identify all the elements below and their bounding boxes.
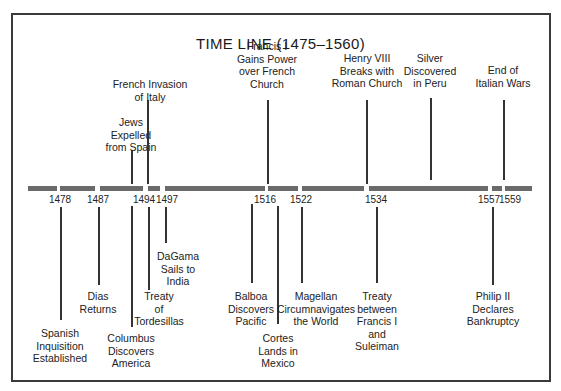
- timeline-segment: [268, 186, 298, 191]
- event-label-line: Roman Church: [332, 77, 403, 90]
- year-label: 1559: [499, 194, 521, 205]
- timeline-segment: [165, 186, 265, 191]
- event-label-line: America: [107, 357, 154, 370]
- event-label: French Invasionof Italy: [113, 78, 188, 103]
- connector-line: [251, 204, 253, 283]
- event-label-line: Magellan: [277, 290, 355, 303]
- timeline-segment: [148, 186, 160, 191]
- connector-line: [430, 98, 432, 180]
- event-label-line: Discovers: [228, 303, 274, 316]
- connector-line: [165, 207, 167, 243]
- event-label-line: Expelled: [106, 129, 157, 142]
- event-label-line: Returns: [80, 303, 117, 316]
- event-label-line: Francis I: [237, 40, 297, 53]
- event-label-line: Church: [237, 78, 297, 91]
- event-label-line: in Peru: [404, 77, 457, 90]
- connector-line: [60, 207, 62, 320]
- event-label-line: from Spain: [106, 141, 157, 154]
- connector-line: [267, 100, 269, 184]
- event-label-line: End of: [475, 64, 530, 77]
- event-label: DaGamaSails toIndia: [157, 250, 199, 288]
- event-label: Philip IIDeclaresBankruptcy: [467, 290, 520, 328]
- connector-line: [376, 207, 378, 283]
- event-label: DiasReturns: [80, 290, 117, 315]
- event-label-line: Columbus: [107, 332, 154, 345]
- event-label: ColumbusDiscoversAmerica: [107, 332, 154, 370]
- year-label: 1497: [156, 194, 178, 205]
- event-label-line: the World: [277, 315, 355, 328]
- event-label-line: Suleiman: [355, 340, 399, 353]
- event-label-line: French Invasion: [113, 78, 188, 91]
- event-label: JewsExpelledfrom Spain: [106, 116, 157, 154]
- timeline-segment: [60, 186, 95, 191]
- connector-line: [301, 207, 303, 283]
- year-label: 1522: [290, 194, 312, 205]
- connector-line: [98, 207, 100, 285]
- event-label-line: Henry VIII: [332, 52, 403, 65]
- event-label: TreatyofTordesillas: [134, 290, 184, 328]
- timeline-segment: [369, 186, 488, 191]
- event-label-line: Bankruptcy: [467, 315, 520, 328]
- event-label-line: DaGama: [157, 250, 199, 263]
- event-label-line: Established: [33, 352, 87, 365]
- event-label: TreatybetweenFrancis IandSuleiman: [355, 290, 399, 353]
- event-label: SpanishInquisitionEstablished: [33, 327, 87, 365]
- connector-line: [131, 150, 133, 184]
- event-label-line: Sails to: [157, 263, 199, 276]
- event-label-line: Discovered: [404, 65, 457, 78]
- event-label-line: Jews: [106, 116, 157, 129]
- event-label-line: Philip II: [467, 290, 520, 303]
- connector-line: [492, 207, 494, 285]
- connector-line: [503, 100, 505, 180]
- year-label: 1557: [478, 194, 500, 205]
- year-label: 1534: [365, 194, 387, 205]
- event-label: CortesLands inMexico: [258, 332, 298, 370]
- event-label-line: Dias: [80, 290, 117, 303]
- event-label-line: Circumnavigates: [277, 303, 355, 316]
- event-label-line: Silver: [404, 52, 457, 65]
- event-label-line: Cortes: [258, 332, 298, 345]
- connector-line: [131, 206, 133, 327]
- event-label-line: Balboa: [228, 290, 274, 303]
- connector-line: [148, 207, 150, 290]
- timeline-segment: [302, 186, 364, 191]
- event-label: MagellanCircumnavigatesthe World: [277, 290, 355, 328]
- event-label-line: between: [355, 303, 399, 316]
- year-label: 1487: [87, 194, 109, 205]
- event-label-line: Gains Power: [237, 53, 297, 66]
- connector-line: [366, 100, 368, 184]
- timeline-segment: [505, 186, 532, 191]
- event-label-line: Declares: [467, 303, 520, 316]
- event-label-line: of Italy: [113, 91, 188, 104]
- timeline-segment: [492, 186, 502, 191]
- event-label-line: Italian Wars: [475, 77, 530, 90]
- event-label-line: Inquisition: [33, 340, 87, 353]
- event-label-line: Discovers: [107, 345, 154, 358]
- timeline-segment: [28, 186, 57, 191]
- event-label-line: Francis I: [355, 315, 399, 328]
- year-label: 1516: [254, 194, 276, 205]
- event-label-line: Mexico: [258, 357, 298, 370]
- event-label-line: Spanish: [33, 327, 87, 340]
- year-label: 1494: [133, 194, 155, 205]
- event-label: SilverDiscoveredin Peru: [404, 52, 457, 90]
- connector-line: [147, 100, 149, 184]
- event-label-line: Treaty: [355, 290, 399, 303]
- event-label: End ofItalian Wars: [475, 64, 530, 89]
- event-label-line: Pacific: [228, 315, 274, 328]
- event-label-line: India: [157, 275, 199, 288]
- event-label-line: Breaks with: [332, 65, 403, 78]
- event-label-line: and: [355, 328, 399, 341]
- event-label-line: Lands in: [258, 345, 298, 358]
- event-label-line: Treaty: [134, 290, 184, 303]
- year-label: 1478: [49, 194, 71, 205]
- event-label: Francis IGains Powerover FrenchChurch: [237, 40, 297, 90]
- event-label-line: of: [134, 303, 184, 316]
- event-label-line: over French: [237, 65, 297, 78]
- timeline-segment: [100, 186, 143, 191]
- event-label: Henry VIIIBreaks withRoman Church: [332, 52, 403, 90]
- event-label-line: Tordesillas: [134, 315, 184, 328]
- event-label: BalboaDiscoversPacific: [228, 290, 274, 328]
